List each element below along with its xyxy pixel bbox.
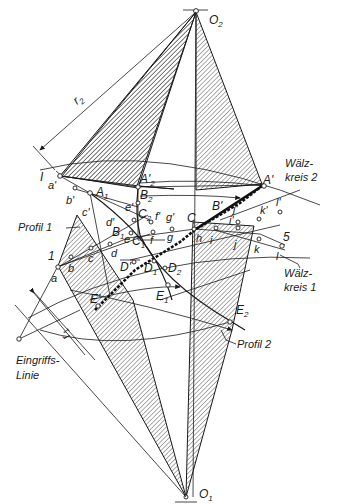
label-k: k [254, 243, 260, 255]
label-h: h [196, 232, 202, 244]
label-a-prime: a' [48, 179, 57, 191]
label-c-prime: c' [82, 206, 91, 218]
label-k-prime: k' [260, 204, 269, 216]
label-pitch-circle-2-line2: kreis 2 [285, 171, 317, 183]
label-line-of-action-line2: Linie [16, 369, 39, 381]
label-1: 1 [48, 249, 55, 263]
label-e-prime: e' [125, 201, 134, 213]
label-line-of-action-line1: Eingriffs- [16, 354, 60, 366]
label-pitch-circle-2-line1: Wälz- [285, 157, 313, 169]
label-f-prime: f' [155, 210, 161, 222]
label-profile-1: Profil 1 [18, 221, 52, 233]
label-r2: r2 [70, 91, 87, 109]
label-D-prime: D' [120, 260, 132, 274]
label-A-prime: A' [262, 173, 274, 187]
label-l: l [276, 250, 279, 262]
label-l-prime: l' [276, 196, 281, 208]
label-5: 5 [283, 230, 290, 244]
label-b: b [68, 262, 74, 274]
label-C: C [187, 211, 196, 225]
label-b-prime: b' [66, 194, 75, 206]
label-pitch-circle-1-line2: kreis 1 [284, 281, 316, 293]
label-I: I [40, 170, 44, 184]
label-d: d [111, 247, 118, 259]
label-pitch-circle-1-line1: Wälz- [284, 267, 312, 279]
label-O2: O2 [209, 13, 223, 29]
label-D2: D2 [168, 261, 182, 277]
label-e: e [124, 233, 130, 245]
label-A1: A1 [95, 185, 108, 201]
label-B1: B1 [112, 225, 124, 241]
label-a: a [51, 272, 57, 284]
label-c: c [88, 252, 94, 264]
upper-sector-right [196, 12, 262, 190]
label-O1: O1 [199, 487, 213, 503]
label-C2: C2 [138, 207, 152, 223]
lower-sector-left [58, 215, 186, 497]
label-E2: E2 [236, 303, 249, 319]
label-profile-2: Profil 2 [237, 338, 271, 350]
gear-meshing-construction-diagram: O2 O1 r2 r1 Wälz- kreis 2 Wälz- kreis 1 … [0, 0, 346, 504]
label-j-prime: j' [231, 203, 238, 215]
label-g-prime: g' [166, 211, 175, 223]
label-A2-prime: A'2 [139, 172, 155, 188]
label-B2: B2 [140, 188, 153, 204]
center-O1 [175, 495, 197, 502]
lower-sector-right [186, 222, 254, 497]
label-g: g [167, 231, 174, 243]
label-E1: E1 [156, 289, 168, 305]
upper-gear-sectors [60, 12, 262, 190]
label-E-prime: E' [90, 292, 101, 306]
label-D1: D1 [144, 261, 157, 277]
label-B-prime: B' [212, 199, 223, 213]
